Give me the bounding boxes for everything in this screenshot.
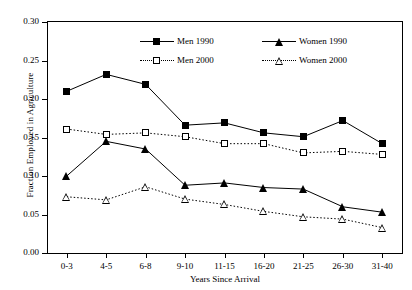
x-tick — [382, 253, 383, 258]
data-point — [378, 224, 386, 232]
data-point — [102, 196, 110, 204]
data-point — [103, 131, 110, 138]
data-point — [221, 119, 228, 126]
data-point — [339, 117, 346, 124]
x-tick — [303, 253, 304, 258]
data-point — [103, 71, 110, 78]
legend-swatch-men-2000 — [140, 55, 174, 65]
y-tick-label: 0.05 — [0, 210, 39, 219]
legend-row-2: Men 2000 Women 2000 — [140, 55, 390, 65]
data-point — [300, 149, 307, 156]
data-point — [63, 126, 70, 133]
legend-swatch-men-1990 — [140, 36, 174, 46]
data-point — [221, 140, 228, 147]
data-point — [142, 81, 149, 88]
x-tick — [106, 253, 107, 258]
data-point — [260, 140, 267, 147]
series-line-men-1990 — [67, 74, 383, 143]
legend-item-women-1990[interactable]: Women 1990 — [262, 36, 384, 46]
data-point — [259, 184, 267, 192]
data-point — [259, 207, 267, 215]
data-point — [182, 122, 189, 129]
data-point — [338, 215, 346, 223]
data-point — [62, 172, 70, 180]
data-point — [220, 179, 228, 187]
data-point — [299, 185, 307, 193]
x-tick — [343, 253, 344, 258]
legend-row-1: Men 1990 Women 1990 — [140, 36, 390, 46]
y-tick-label: 0.30 — [0, 17, 39, 26]
y-tick-label: 0.25 — [0, 56, 39, 65]
legend-label-women-2000: Women 2000 — [299, 55, 347, 65]
data-point — [379, 151, 386, 158]
data-point — [260, 129, 267, 136]
data-point — [378, 208, 386, 216]
chart-legend: Men 1990 Women 1990 Men 2000 Women 20 — [140, 36, 390, 74]
data-point — [299, 213, 307, 221]
data-point — [182, 133, 189, 140]
x-tick-label: 31-40 — [352, 261, 412, 271]
x-tick — [185, 253, 186, 258]
legend-swatch-women-2000 — [262, 55, 296, 65]
data-point — [181, 195, 189, 203]
data-point — [338, 203, 346, 211]
y-tick-label: 0.20 — [0, 94, 39, 103]
data-point — [62, 193, 70, 201]
legend-item-men-2000[interactable]: Men 2000 — [140, 55, 262, 65]
y-tick — [42, 253, 47, 254]
data-point — [339, 148, 346, 155]
data-point — [220, 200, 228, 208]
legend-label-men-2000: Men 2000 — [177, 55, 214, 65]
legend-swatch-women-1990 — [262, 36, 296, 46]
data-point — [141, 145, 149, 153]
data-point — [141, 183, 149, 191]
x-tick — [146, 253, 147, 258]
data-point — [181, 181, 189, 189]
x-axis-title: Years Since Arrival — [47, 274, 403, 284]
x-tick — [67, 253, 68, 258]
data-point — [102, 137, 110, 145]
data-point — [142, 129, 149, 136]
data-point — [63, 88, 70, 95]
plot-border-right — [402, 21, 403, 254]
y-tick-label: 0.15 — [0, 133, 39, 142]
y-tick-label: 0.00 — [0, 248, 39, 257]
y-tick-label: 0.10 — [0, 171, 39, 180]
x-tick — [264, 253, 265, 258]
x-tick — [225, 253, 226, 258]
agriculture-employment-line-chart: Fraction Employed in Agriculture 0.000.0… — [0, 0, 412, 290]
legend-item-women-2000[interactable]: Women 2000 — [262, 55, 384, 65]
data-point — [300, 133, 307, 140]
legend-label-men-1990: Men 1990 — [177, 36, 214, 46]
legend-label-women-1990: Women 1990 — [299, 36, 347, 46]
data-point — [379, 140, 386, 147]
legend-item-men-1990[interactable]: Men 1990 — [140, 36, 262, 46]
